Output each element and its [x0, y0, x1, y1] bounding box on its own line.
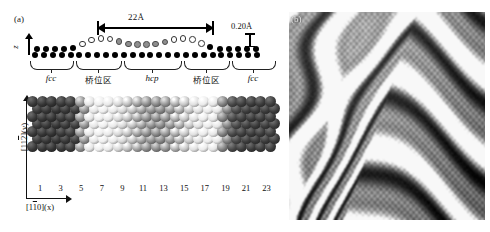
side-view-atom-bottom: [183, 52, 189, 58]
side-view-atom-bottom: [236, 52, 242, 58]
column-number: 3: [54, 183, 68, 193]
side-view-atom-bottom: [76, 52, 82, 58]
panel-a: (a) 22Å 0.20Å z [112](y) [110](x) 135791…: [0, 0, 288, 232]
height-scale-label: 0.20Å: [231, 21, 252, 31]
side-view-atom-top-filled: [235, 46, 241, 52]
column-number: 17: [198, 183, 212, 193]
side-view-atom-bottom: [254, 52, 260, 58]
figure-container: (a) 22Å 0.20Å z [112](y) [110](x) 135791…: [0, 0, 490, 232]
side-view-atom-top-gray: [143, 41, 150, 48]
side-view-atom-top-gray: [116, 38, 123, 45]
side-view-atom-bottom: [32, 52, 38, 58]
side-view-atom-top-filled: [43, 46, 49, 52]
column-number-axis: 1357911131517192123: [31, 183, 281, 195]
y-axis-stem: [26, 168, 27, 199]
side-view-atom-bottom: [112, 52, 118, 58]
side-view-atom-top-open: [107, 36, 114, 43]
dimension-label-22a: 22Å: [128, 12, 144, 22]
panel-b-label: (b): [291, 14, 302, 24]
side-view-atom-bottom: [174, 52, 180, 58]
side-view-atom-bottom: [210, 52, 216, 58]
side-view-atom-bottom: [59, 52, 65, 58]
side-view-atom-top-gray: [134, 41, 141, 48]
region-label: fcc: [29, 73, 73, 83]
side-view-atom-top-open: [171, 36, 178, 43]
side-view-atom-top-open: [79, 41, 86, 48]
z-axis-label: z: [10, 45, 20, 48]
column-number: 7: [95, 183, 109, 193]
side-view-atom-top-filled: [217, 46, 223, 52]
side-view-atom-bottom: [50, 52, 56, 58]
side-view-atom-bottom: [218, 52, 224, 58]
side-view-atom-top-gray: [152, 41, 159, 48]
side-view-atom-bottom: [68, 52, 74, 58]
side-view-atom-top-filled: [52, 46, 58, 52]
side-view-atom-top-filled: [34, 46, 40, 52]
column-number: 13: [157, 183, 171, 193]
column-number: 5: [74, 183, 88, 193]
panel-a-label: (a): [14, 14, 24, 24]
side-view-atom-bottom: [130, 52, 136, 58]
x-axis-arrow: [26, 198, 66, 199]
side-view-atom-bottom: [245, 52, 251, 58]
side-view-atom-bottom: [139, 52, 145, 58]
side-view-atom-top-open: [180, 35, 187, 42]
side-view-atom-top-gray: [162, 39, 169, 46]
region-label: hcp: [130, 73, 174, 83]
side-view-atom-bottom: [121, 52, 127, 58]
side-view-atom-rows: [30, 33, 280, 61]
side-view-atom-top-filled: [253, 46, 259, 52]
column-number: 23: [260, 183, 274, 193]
panel-b-stm-image: [289, 12, 485, 220]
side-view-atom-top-filled: [207, 44, 213, 50]
x-axis-label: [110](x): [26, 202, 54, 212]
side-view-atom-bottom: [85, 52, 91, 58]
region-label: 桥位区: [76, 73, 120, 85]
side-view-atom-top-filled: [61, 46, 67, 52]
column-number: 19: [218, 183, 232, 193]
side-view-atom-top-open: [98, 35, 105, 42]
side-view-atom-top-filled: [70, 45, 76, 51]
side-view-atom-top-filled: [226, 46, 232, 52]
side-view-atom-bottom: [103, 52, 109, 58]
ball-model-top-view: [31, 96, 279, 168]
region-label: fcc: [231, 73, 275, 83]
region-braces: [30, 61, 280, 73]
side-view-atom-top-open: [88, 37, 95, 44]
column-number: 11: [136, 183, 150, 193]
stm-image-canvas: [289, 12, 485, 220]
side-view-atom-bottom: [165, 52, 171, 58]
column-number: 9: [115, 183, 129, 193]
column-number: 1: [33, 183, 47, 193]
side-view-atom-top-open: [189, 36, 196, 43]
column-number: 15: [177, 183, 191, 193]
region-label: 桥位区: [184, 73, 228, 85]
side-view-atom-bottom: [201, 52, 207, 58]
column-number: 21: [239, 183, 253, 193]
ball-model-atom: [265, 96, 276, 107]
side-view-atom-bottom: [41, 52, 47, 58]
side-view-atom-bottom: [156, 52, 162, 58]
side-view-atom-top-open: [198, 40, 205, 47]
side-view-atom-bottom: [147, 52, 153, 58]
side-view-atom-top-gray: [125, 41, 132, 48]
dimension-arrow-22a: [98, 27, 213, 29]
side-view-atom-bottom: [94, 52, 100, 58]
side-view-atom-bottom: [192, 52, 198, 58]
side-view-atom-top-filled: [244, 46, 250, 52]
side-view-atom-bottom: [227, 52, 233, 58]
